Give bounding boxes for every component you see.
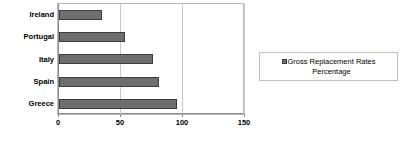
bar-portugal — [59, 32, 125, 42]
x-tick-label-0: 0 — [56, 118, 60, 127]
bar-row — [59, 48, 153, 70]
category-label-spain: Spain — [0, 76, 54, 85]
bar-row — [59, 93, 177, 115]
gridline — [244, 4, 245, 114]
legend-entry: Gross Replacement Rates Percentage — [278, 57, 380, 76]
bar-row — [59, 4, 102, 26]
gridline — [182, 4, 183, 114]
x-tick-mark — [182, 114, 183, 117]
category-label-ireland: Ireland — [0, 10, 54, 19]
plot-area — [57, 3, 244, 115]
x-tick-label-50: 50 — [116, 118, 124, 127]
bar-row — [59, 26, 125, 48]
legend-label: Gross Replacement Rates Percentage — [288, 57, 376, 76]
bar-spain — [59, 77, 159, 87]
x-tick-mark — [244, 114, 245, 117]
bar-chart-figure: GreeceSpainItalyPortugalIreland 05010015… — [0, 0, 405, 143]
category-label-greece: Greece — [0, 98, 54, 107]
bar-italy — [59, 54, 153, 64]
category-label-italy: Italy — [0, 54, 54, 63]
bar-ireland — [59, 10, 102, 20]
legend-swatch-icon — [282, 59, 287, 64]
x-tick-label-150: 150 — [238, 118, 251, 127]
bar-greece — [59, 99, 177, 109]
bar-row — [59, 71, 159, 93]
x-tick-label-100: 100 — [176, 118, 189, 127]
x-tick-mark — [120, 114, 121, 117]
category-label-portugal: Portugal — [0, 32, 54, 41]
category-axis-labels: GreeceSpainItalyPortugalIreland — [0, 3, 54, 115]
chart-legend: Gross Replacement Rates Percentage — [259, 52, 398, 81]
x-tick-mark — [58, 114, 59, 117]
value-axis-labels: 050100150 — [57, 118, 244, 132]
